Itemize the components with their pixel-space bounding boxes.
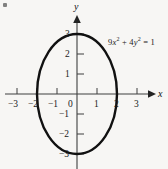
y-axis-arrowhead <box>73 15 81 23</box>
x-tick-label-neg2: −2 <box>28 100 38 110</box>
equation-equals: = <box>143 37 148 47</box>
equation-plus: + <box>122 37 127 47</box>
graph-canvas <box>0 0 168 169</box>
x-axis-label: x <box>158 89 162 99</box>
equation-exp-x: 2 <box>116 36 119 42</box>
y-tick-label-neg3: −3 <box>59 150 69 160</box>
x-tick-label-2: 2 <box>114 100 119 110</box>
x-tick-label-3: 3 <box>134 100 139 110</box>
x-axis-arrowhead <box>148 90 156 98</box>
y-axis-label: y <box>74 2 78 12</box>
y-tick-label-3: 3 <box>65 30 70 40</box>
equation-exp-y: 2 <box>138 36 141 42</box>
x-tick-label-neg1: −1 <box>48 100 58 110</box>
equation-rhs: 1 <box>151 37 155 47</box>
y-tick-label-1: 1 <box>65 70 70 80</box>
y-tick-label-2: 2 <box>65 50 70 60</box>
y-tick-label-neg1: −1 <box>59 110 69 120</box>
equation-label: 9x2 + 4y2 = 1 <box>108 38 155 47</box>
x-tick-label-1: 1 <box>94 100 99 110</box>
ellipse-graph-figure: −3 −2 −1 0 1 2 3 3 2 1 −1 −2 −3 y x 9x2 … <box>0 0 168 169</box>
x-tick-label-neg3: −3 <box>8 100 18 110</box>
y-tick-label-neg2: −2 <box>59 130 69 140</box>
